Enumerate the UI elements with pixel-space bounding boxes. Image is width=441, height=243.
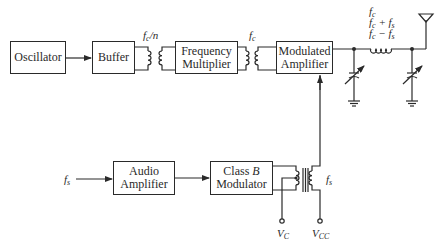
label-fc-over-n: fc/n [143, 30, 158, 44]
junction-dot-1 [352, 47, 356, 51]
oscillator-block: Oscillator [10, 41, 66, 74]
label-secondary-fs: fs [326, 174, 332, 188]
class-b-modulator-block: Class B Modulator [210, 161, 273, 195]
transformer-multiplier-modamp [238, 47, 276, 70]
audio-amplifier-block: Audio Amplifier [113, 161, 175, 195]
buffer-block: Buffer [92, 41, 135, 74]
vc-terminal [280, 219, 284, 223]
vcc-terminal [318, 219, 322, 223]
label-fc: fc [249, 30, 256, 44]
class-b-line2: Modulator [216, 178, 267, 191]
label-audio-input-fs: fs [64, 174, 70, 188]
frequency-multiplier-block: Frequency Multiplier [175, 41, 238, 74]
transformer-buffer-multiplier [135, 47, 175, 70]
modulated-amplifier-block: Modulated Amplifier [276, 41, 333, 74]
label-vc: VC [277, 228, 289, 242]
junction-dot-2 [410, 47, 414, 51]
modulation-transformer [273, 75, 320, 219]
label-output-fc-minus-fs: fc − fs [369, 28, 395, 42]
label-vcc: VCC [312, 228, 329, 242]
center-tap-dot [294, 176, 297, 179]
